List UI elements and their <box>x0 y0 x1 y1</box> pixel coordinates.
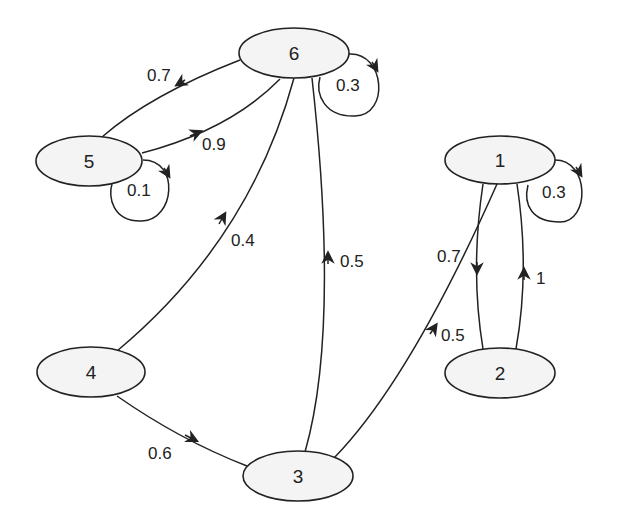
edge-label-3-6: 0.5 <box>340 252 364 271</box>
node-label: 4 <box>86 362 97 383</box>
edge-label-1-2: 0.7 <box>437 247 461 266</box>
node-label: 2 <box>495 363 506 384</box>
graph-canvas: 0.7 0.9 0.1 0.3 0.4 0.5 0.6 0.5 0.7 <box>0 0 619 532</box>
edge-5-to-6: 0.9 <box>142 79 280 154</box>
edge-4-to-6: 0.4 <box>117 78 294 351</box>
edge-label-1-1: 0.3 <box>542 183 566 202</box>
edge-label-5-5: 0.1 <box>127 181 151 200</box>
edge-3-to-6: 0.5 <box>305 78 364 452</box>
node-label: 1 <box>495 150 506 171</box>
node-2: 2 <box>445 348 555 398</box>
node-label: 3 <box>293 466 304 487</box>
node-5: 5 <box>36 136 142 186</box>
node-label: 6 <box>289 43 300 64</box>
edge-label-4-6: 0.4 <box>231 231 255 250</box>
edge-label-5-6: 0.9 <box>202 135 226 154</box>
edge-1-to-2: 0.7 <box>437 184 483 349</box>
edge-label-6-6: 0.3 <box>336 76 360 95</box>
edge-label-2-1: 1 <box>536 269 545 288</box>
node-4: 4 <box>37 347 145 397</box>
edge-4-to-3: 0.6 <box>117 396 247 466</box>
edge-label-3-1: 0.5 <box>441 326 465 345</box>
node-1: 1 <box>445 136 555 184</box>
node-label: 5 <box>84 151 95 172</box>
edge-label-6-5: 0.7 <box>147 66 171 85</box>
edge-3-to-1: 0.5 <box>334 184 497 458</box>
edge-6-to-5: 0.7 <box>102 60 240 137</box>
edge-label-4-3: 0.6 <box>148 444 172 463</box>
node-3: 3 <box>243 451 353 501</box>
node-6: 6 <box>239 28 349 78</box>
